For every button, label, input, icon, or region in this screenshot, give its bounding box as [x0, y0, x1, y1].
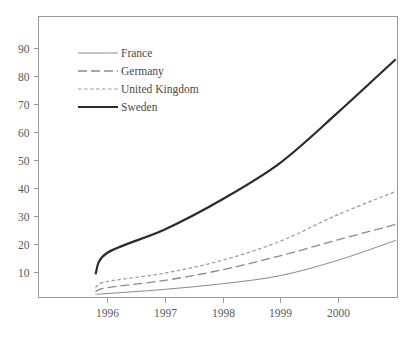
legend-label-sweden: Sweden — [121, 101, 158, 113]
legend-item-sweden[interactable]: Sweden — [78, 101, 158, 113]
chart-container: 102030405060708090 19961997199819992000 … — [0, 0, 414, 340]
x-tick-label-1997: 1997 — [154, 307, 177, 319]
series-line-france — [95, 240, 395, 294]
legend-label-germany: Germany — [121, 65, 164, 78]
y-tick-label-40: 40 — [18, 183, 30, 195]
x-axis-tick-labels: 19961997199819992000 — [96, 307, 350, 319]
legend-item-germany[interactable]: Germany — [78, 65, 164, 78]
series-line-germany — [95, 224, 395, 291]
legend-item-france[interactable]: France — [78, 47, 152, 59]
y-tick-label-20: 20 — [18, 239, 30, 251]
chart-legend: FranceGermanyUnited KingdomSweden — [78, 47, 199, 113]
y-axis-tick-labels: 102030405060708090 — [18, 43, 30, 279]
y-tick-label-80: 80 — [18, 71, 30, 83]
x-tick-label-1996: 1996 — [96, 307, 119, 319]
legend-item-united-kingdom[interactable]: United Kingdom — [78, 83, 199, 96]
x-axis-ticks — [108, 298, 339, 303]
y-tick-label-60: 60 — [18, 127, 30, 139]
legend-label-united-kingdom: United Kingdom — [121, 83, 199, 96]
plot-frame — [39, 17, 398, 298]
x-tick-label-2000: 2000 — [327, 307, 350, 319]
x-tick-label-1998: 1998 — [212, 307, 235, 319]
line-chart: 102030405060708090 19961997199819992000 … — [0, 0, 414, 340]
y-tick-label-10: 10 — [18, 267, 30, 279]
y-tick-label-50: 50 — [18, 155, 30, 167]
y-tick-label-70: 70 — [18, 99, 30, 111]
x-tick-label-1999: 1999 — [269, 307, 292, 319]
y-tick-label-90: 90 — [18, 43, 30, 55]
legend-label-france: France — [121, 47, 152, 59]
y-axis-ticks — [34, 49, 39, 273]
y-tick-label-30: 30 — [18, 211, 30, 223]
